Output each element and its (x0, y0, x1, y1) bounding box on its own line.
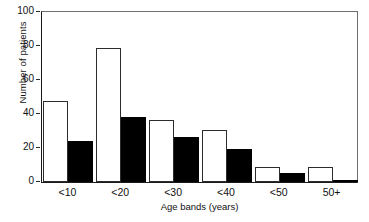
y-tick-mark (36, 45, 40, 46)
bar-group (96, 12, 146, 182)
bar-filled (227, 149, 252, 182)
bar-filled (333, 180, 358, 182)
x-tick-label: 50+ (305, 186, 358, 198)
bar-group (43, 12, 93, 182)
y-tick-label: 80 (12, 40, 34, 50)
plot-area (41, 11, 358, 183)
bar-group (308, 12, 358, 182)
y-tick-label: 40 (12, 108, 34, 118)
y-tick-mark (36, 79, 40, 80)
y-tick-mark (36, 11, 40, 12)
x-tick-label: <20 (94, 186, 147, 198)
bar-open (202, 130, 227, 182)
bar-filled (121, 117, 146, 182)
y-tick-label: 0 (12, 176, 34, 186)
bar-chart-figure: Number of patients 100 80 60 40 20 0 <10… (0, 0, 369, 222)
x-axis-title: Age bands (years) (41, 201, 358, 212)
x-tick-label: <40 (200, 186, 253, 198)
bar-group (202, 12, 252, 182)
y-tick-mark (36, 113, 40, 114)
bars-layer (42, 12, 357, 182)
x-tick-label: <50 (252, 186, 305, 198)
bar-filled (174, 137, 199, 182)
bar-open (149, 120, 174, 182)
x-tick-label: <10 (41, 186, 94, 198)
y-tick-label: 20 (12, 142, 34, 152)
x-axis-tick-labels: <10<20<30<40<5050+ (41, 186, 358, 200)
y-tick-label: 60 (12, 74, 34, 84)
bar-open (43, 101, 68, 182)
y-axis-tick-labels: 100 80 60 40 20 0 (8, 0, 34, 222)
y-tick-mark (36, 147, 40, 148)
y-tick-mark (36, 181, 40, 182)
x-tick-label: <30 (147, 186, 200, 198)
bar-group (255, 12, 305, 182)
bar-open (96, 48, 121, 182)
bar-open (255, 167, 280, 182)
bar-filled (280, 173, 305, 182)
bar-group (149, 12, 199, 182)
bar-filled (68, 141, 93, 182)
y-tick-label: 100 (12, 6, 34, 16)
bar-open (308, 167, 333, 182)
